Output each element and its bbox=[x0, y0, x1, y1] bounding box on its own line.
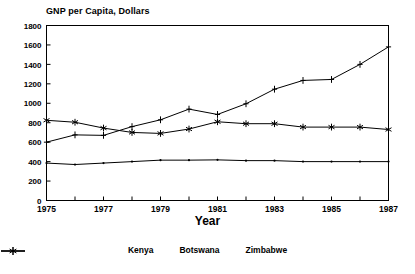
chart-legend: Kenya Botswana Zimbabwe bbox=[0, 246, 415, 255]
data-point-marker bbox=[159, 159, 161, 161]
y-tick-label: 1400 bbox=[24, 61, 42, 70]
series-line-botswana bbox=[47, 47, 389, 142]
data-point-marker bbox=[359, 161, 361, 163]
legend-item-botswana[interactable]: Botswana bbox=[179, 246, 219, 255]
y-tick-label: 1600 bbox=[24, 41, 42, 50]
y-tick-label: 1800 bbox=[24, 22, 42, 31]
y-tick-label: 400 bbox=[28, 158, 42, 167]
data-point-marker bbox=[74, 163, 76, 165]
data-point-marker bbox=[216, 159, 218, 161]
x-tick-label: 1985 bbox=[322, 204, 341, 214]
legend-item-zimbabwe[interactable]: Zimbabwe bbox=[246, 246, 288, 255]
data-point-marker bbox=[131, 161, 133, 163]
x-tick-label: 1975 bbox=[37, 204, 56, 214]
y-tick-label: 600 bbox=[28, 138, 42, 147]
chart-figure: GNP per Capita, Dollars 0200400600800100… bbox=[0, 0, 415, 274]
legend-label-zimbabwe: Zimbabwe bbox=[246, 246, 288, 255]
data-point-marker bbox=[102, 162, 104, 164]
zimbabwe-line-swatch-icon bbox=[0, 246, 26, 256]
legend-item-kenya[interactable]: Kenya bbox=[128, 246, 154, 255]
data-point-marker bbox=[330, 161, 332, 163]
series-botswana bbox=[44, 43, 391, 145]
legend-label-kenya: Kenya bbox=[128, 246, 154, 255]
y-tick-label: 200 bbox=[28, 177, 42, 186]
y-tick-label: 1200 bbox=[24, 80, 42, 89]
series-kenya bbox=[45, 159, 389, 166]
data-point-marker bbox=[302, 161, 304, 163]
line-chart-plot: 0200400600800100012001400160018001975197… bbox=[0, 0, 415, 274]
series-zimbabwe bbox=[44, 117, 392, 137]
y-tick-label: 1000 bbox=[24, 99, 42, 108]
data-point-marker bbox=[188, 159, 190, 161]
legend-label-botswana: Botswana bbox=[179, 246, 219, 255]
x-axis-title: Year bbox=[0, 214, 415, 228]
data-point-marker bbox=[387, 161, 389, 163]
data-point-marker bbox=[273, 160, 275, 162]
x-tick-label: 1981 bbox=[208, 204, 227, 214]
x-tick-label: 1983 bbox=[265, 204, 284, 214]
data-point-marker bbox=[45, 162, 47, 164]
x-tick-label: 1977 bbox=[94, 204, 113, 214]
x-tick-label: 1987 bbox=[379, 204, 398, 214]
x-tick-label: 1979 bbox=[151, 204, 170, 214]
y-tick-label: 800 bbox=[28, 119, 42, 128]
data-point-marker bbox=[245, 160, 247, 162]
